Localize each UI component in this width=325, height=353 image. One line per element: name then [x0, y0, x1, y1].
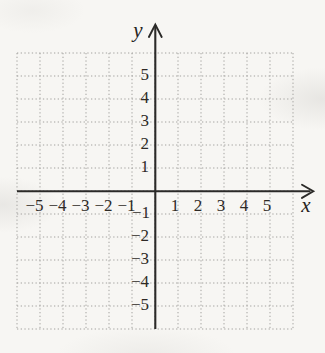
y-tick-label-2: 2 [141, 134, 150, 153]
x-tick-label-neg-2: −2 [94, 196, 112, 215]
x-tick-label-4: 4 [240, 196, 249, 215]
y-tick-label-neg-2: −2 [131, 226, 149, 245]
y-tick-label-neg-4: −4 [131, 272, 150, 291]
x-tick-label-neg-3: −3 [71, 196, 89, 215]
x-tick-label-neg-4: −4 [48, 196, 67, 215]
y-axis-label: y [131, 18, 143, 42]
coordinate-plane-figure: −5 −4 −3 −2 −1 1 2 3 4 5 5 4 3 2 1 −1 −2… [0, 0, 325, 353]
y-tick-label-4: 4 [141, 88, 150, 107]
coordinate-grid-svg: −5 −4 −3 −2 −1 1 2 3 4 5 5 4 3 2 1 −1 −2… [0, 0, 325, 353]
x-tick-label-2: 2 [194, 196, 203, 215]
y-tick-label-neg-5: −5 [131, 295, 149, 314]
y-tick-label-1: 1 [141, 157, 150, 176]
y-tick-label-5: 5 [141, 65, 150, 84]
x-tick-label-5: 5 [263, 196, 272, 215]
x-tick-label-neg-5: −5 [25, 196, 43, 215]
x-tick-label-1: 1 [171, 196, 180, 215]
x-tick-label-3: 3 [217, 196, 226, 215]
y-tick-label-3: 3 [141, 111, 150, 130]
y-tick-label-neg-1: −1 [132, 203, 150, 222]
y-tick-label-neg-3: −3 [131, 249, 149, 268]
x-axis-label: x [300, 193, 311, 217]
y-tick-labels: 5 4 3 2 1 −1 −2 −3 −4 −5 [131, 65, 150, 314]
